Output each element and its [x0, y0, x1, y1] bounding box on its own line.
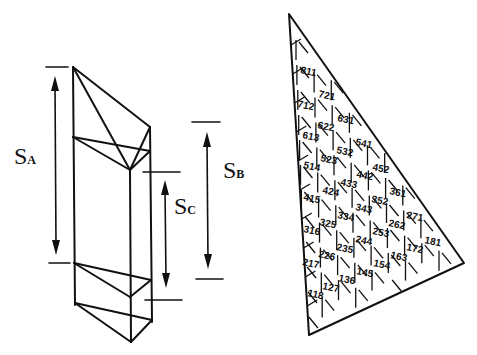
cell-label: 235: [336, 241, 355, 255]
arrow-down-icon: [52, 240, 60, 255]
cell-label: 415: [303, 191, 322, 205]
cell-label: 811: [300, 64, 318, 78]
diagram-canvas: SA SB SC 8117217126316226135415325235144…: [0, 0, 477, 355]
cell-label: 541: [355, 136, 374, 150]
cell-label: 532: [336, 144, 355, 158]
cell-label: 172: [406, 241, 425, 255]
label-sa: SA: [14, 143, 36, 169]
cell-label: 271: [406, 209, 425, 223]
arrow-down-icon: [162, 273, 170, 288]
cell-label: 127: [322, 280, 341, 294]
cell-label: 262: [388, 217, 407, 231]
arrow-down-icon: [204, 254, 212, 269]
cell-label: 613: [302, 129, 321, 143]
composition-triangle: 8117217126316226135415325235144524424334…: [289, 14, 464, 335]
arrow-up-icon: [161, 180, 169, 195]
cell-label: 244: [355, 233, 374, 247]
cell-label: 721: [318, 88, 337, 102]
label-sc: SC: [174, 193, 196, 219]
cell-label: 361: [389, 185, 408, 199]
cell-label: 514: [303, 159, 322, 173]
cell-label: 118: [307, 287, 325, 301]
cell-label: 442: [356, 168, 375, 182]
label-sb: SB: [223, 157, 244, 183]
dimension-sa: [46, 67, 70, 263]
cell-label: 325: [319, 216, 338, 230]
cell-label: 712: [297, 98, 316, 112]
dimension-sb: [192, 122, 223, 279]
cell-label: 631: [337, 112, 356, 126]
cell-label: 523: [320, 152, 339, 166]
cell-label: 352: [371, 193, 390, 207]
triangle-grid-lines: [291, 39, 451, 328]
cell-label: 163: [390, 249, 409, 263]
cell-label: 334: [337, 209, 356, 223]
cell-label: 316: [303, 223, 322, 237]
cell-label: 622: [317, 119, 336, 133]
crystal-prism: [73, 67, 152, 342]
cell-label: 145: [356, 265, 375, 279]
cell-label: 154: [373, 257, 392, 271]
cell-label: 253: [372, 225, 391, 239]
cell-label: 343: [355, 201, 374, 215]
cell-label: 452: [372, 161, 391, 175]
cell-label: 424: [322, 184, 341, 198]
cell-label: 136: [338, 272, 357, 286]
arrow-up-icon: [51, 76, 59, 91]
arrow-up-icon: [203, 132, 211, 147]
